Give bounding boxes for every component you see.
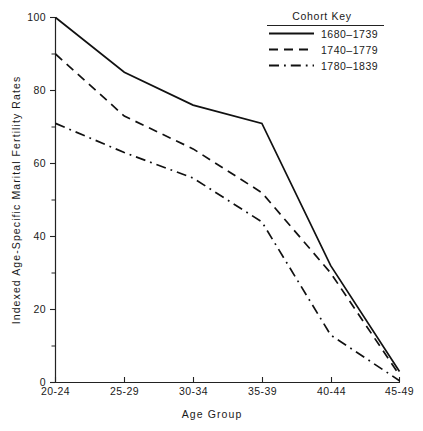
- y-tick-label-80: 80: [34, 84, 46, 96]
- x-tick-labels: 20-24 25-29 30-34 35-39 40-44 45-49: [41, 385, 414, 397]
- series-line-1740-1779: [56, 54, 400, 375]
- x-tick-label-35-39: 35-39: [248, 385, 277, 397]
- fertility-rate-chart-figure: 100 80 60 40 20 0 20-24 25-29 30-34 35-3…: [0, 0, 423, 431]
- x-tick-label-30-34: 30-34: [179, 385, 208, 397]
- y-tick-label-60: 60: [34, 157, 46, 169]
- y-tick-label-40: 40: [34, 230, 46, 242]
- legend-title: Cohort Key: [292, 10, 352, 22]
- axis-lines: [56, 17, 401, 383]
- x-tick-label-40-44: 40-44: [317, 385, 346, 397]
- y-tick-label-100: 100: [27, 11, 46, 23]
- y-axis-title: Indexed Age-Specific Marital Fertility R…: [10, 76, 22, 325]
- x-ticks: [56, 377, 400, 383]
- y-tick-labels: 100 80 60 40 20 0: [27, 11, 46, 388]
- x-tick-label-20-24: 20-24: [41, 385, 70, 397]
- x-axis-title: Age Group: [182, 408, 243, 420]
- legend-label-1740-1779: 1740–1779: [321, 44, 378, 56]
- axis-group: [50, 17, 400, 383]
- y-tick-label-20: 20: [34, 303, 46, 315]
- legend-label-1780-1839: 1780–1839: [321, 60, 378, 72]
- legend-label-1680-1739: 1680–1739: [321, 28, 378, 40]
- x-tick-label-45-49: 45-49: [385, 385, 414, 397]
- series-group: [56, 18, 400, 381]
- legend: Cohort Key 1680–1739 1740–1779 1780–1839: [267, 10, 384, 72]
- series-line-1780-1839: [56, 123, 400, 380]
- x-tick-label-25-29: 25-29: [110, 385, 139, 397]
- chart-canvas: 100 80 60 40 20 0 20-24 25-29 30-34 35-3…: [0, 0, 423, 431]
